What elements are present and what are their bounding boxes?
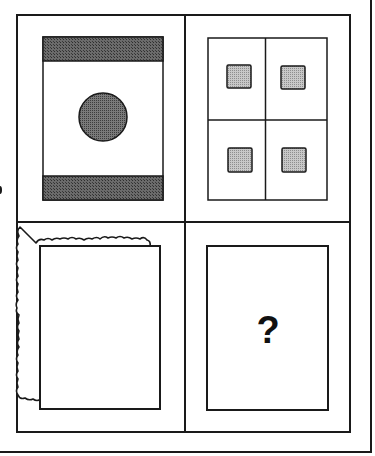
- cell-top-right: [208, 38, 327, 200]
- question-mark: ?: [248, 308, 288, 352]
- small-square-4: [282, 148, 306, 172]
- small-square-2: [281, 66, 305, 89]
- small-square-1: [227, 65, 251, 88]
- cell-bottom-left: [16, 227, 160, 409]
- inner-rect: [40, 246, 160, 409]
- dark-bar-bottom: [43, 176, 163, 200]
- cell-top-left: [43, 37, 163, 200]
- edge-mark: [0, 186, 2, 194]
- small-square-3: [228, 148, 252, 172]
- grid-rect: [208, 38, 327, 200]
- dark-bar-top: [43, 37, 163, 61]
- matrix-puzzle: [0, 0, 375, 456]
- shaded-circle: [79, 93, 127, 141]
